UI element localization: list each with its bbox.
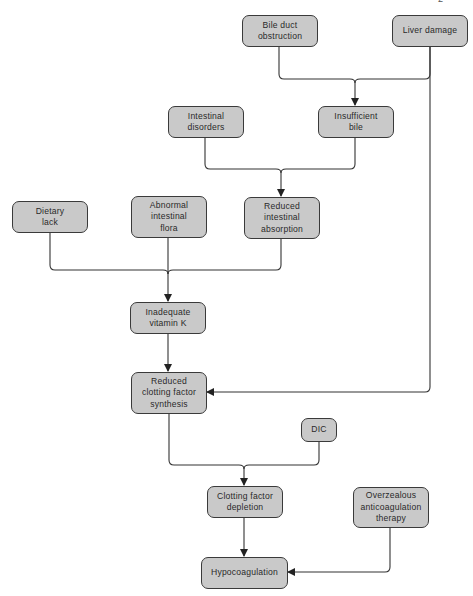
node-dic: DIC <box>301 418 337 442</box>
node-clotting-factor-depletion: Clotting factor depletion <box>207 486 283 518</box>
node-abnormal-intestinal-flora: Abnormal intestinal flora <box>131 196 207 238</box>
node-insufficient-bile: Insufficient bile <box>318 106 394 138</box>
node-hypocoagulation: Hypocoagulation <box>201 557 288 589</box>
node-liver-damage: Liver damage <box>392 15 468 47</box>
node-overzealous-anticoagulation-therapy: Overzealous anticoagulation therapy <box>353 487 429 528</box>
node-reduced-intestinal-absorption: Reduced intestinal absorption <box>244 197 320 239</box>
node-inadequate-vitamin-k: Inadequate vitamin K <box>130 302 206 334</box>
node-dietary-lack: Dietary lack <box>12 201 88 233</box>
node-bile-duct-obstruction: Bile duct obstruction <box>242 15 318 47</box>
node-reduced-clotting-factor-synthesis: Reduced clotting factor synthesis <box>131 372 207 414</box>
node-intestinal-disorders: Intestinal disorders <box>168 106 244 138</box>
